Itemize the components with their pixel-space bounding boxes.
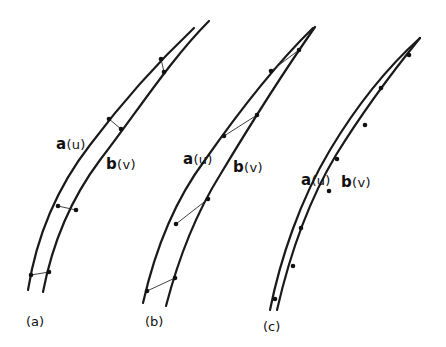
panel-a-link-3 [58, 206, 76, 210]
panel-c-curve-b-label: b(v) [341, 173, 371, 191]
panel-a-curve-b-label: b(v) [106, 155, 136, 173]
panel-a-link-2 [109, 119, 121, 129]
curve-name: b [106, 155, 117, 173]
curve-arg: (u) [66, 137, 85, 152]
curve-arg: (u) [193, 152, 212, 167]
curve-name: a [56, 135, 66, 153]
curve-name: a [183, 150, 193, 168]
curve-arg: (v) [352, 175, 371, 190]
panel-b-label: (b) [145, 314, 163, 329]
panel-c-label: (c) [263, 319, 280, 334]
curve-name: a [301, 171, 311, 189]
curve-arg: (v) [117, 157, 136, 172]
figure-canvas: a(u) b(v) (a) a(u) b(v) (b) a(u) b(v) (c… [0, 0, 446, 347]
diagram-svg [0, 0, 446, 347]
panel-c-curve-a-label: a(u) [301, 171, 331, 189]
panel-b-curve-a-label: a(u) [183, 150, 213, 168]
panel-a-curve-a-label: a(u) [56, 135, 86, 153]
panel-b-curve-b-label: b(v) [233, 158, 263, 176]
curve-arg: (v) [244, 160, 263, 175]
panel-b-link-3 [176, 199, 208, 224]
curve-arg: (u) [311, 173, 330, 188]
panel-b-link-1 [271, 50, 299, 71]
panel-a-points [29, 57, 167, 278]
curve-name: b [341, 173, 352, 191]
curve-name: b [233, 158, 244, 176]
panel-a-label: (a) [26, 314, 44, 329]
